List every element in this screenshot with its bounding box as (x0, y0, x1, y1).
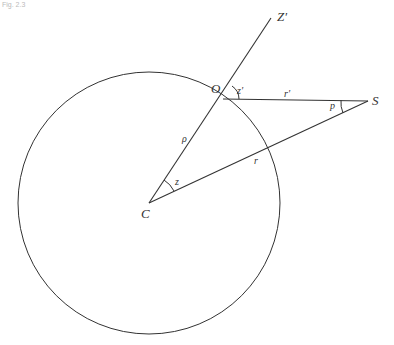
label-C: C (141, 207, 150, 220)
label-p: p (330, 101, 335, 111)
label-S: S (372, 94, 379, 107)
line-O-S (223, 99, 368, 101)
label-O: O (211, 82, 220, 95)
label-rho: ρ (182, 134, 187, 144)
label-r: r (254, 156, 258, 166)
angle-arc-p (341, 100, 343, 113)
label-r-prime: r′ (284, 89, 290, 99)
label-z: z (175, 177, 179, 187)
label-z-prime: z′ (237, 86, 243, 96)
geometry-canvas (0, 0, 394, 345)
label-Z-prime: Z′ (277, 10, 287, 23)
line-C-S (149, 101, 368, 203)
line-C-Zprime (149, 18, 271, 203)
angle-arc-z (164, 180, 174, 191)
